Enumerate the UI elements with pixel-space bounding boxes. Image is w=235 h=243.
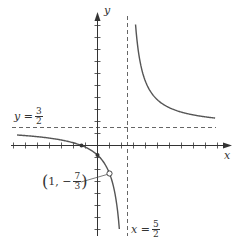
x-axis-arrow-icon — [223, 143, 232, 149]
va-lhs: x = — [131, 223, 150, 236]
ha-denominator: 2 — [36, 117, 42, 126]
ha-lhs: y = — [14, 110, 33, 123]
hole-close-paren: ) — [81, 172, 87, 191]
x-intercept-point — [80, 144, 84, 148]
hole-label: (1, −73) — [42, 172, 87, 192]
right-branch — [136, 25, 216, 119]
x-axis-label: x — [224, 150, 230, 161]
va-denominator: 2 — [153, 230, 159, 239]
horizontal-asymptote-label: y =32 — [14, 107, 43, 127]
hole-coords: 1, − — [48, 175, 71, 188]
axes — [11, 12, 232, 236]
y-intercept-point — [96, 153, 100, 157]
hole-open-circle — [107, 171, 112, 176]
hole-denominator: 3 — [74, 182, 80, 191]
curves — [17, 25, 215, 229]
va-fraction: 52 — [152, 220, 160, 240]
ha-fraction: 32 — [35, 107, 43, 127]
y-axis-label: y — [104, 5, 110, 16]
vertical-asymptote-label: x =52 — [131, 220, 160, 240]
y-axis-arrow-icon — [95, 12, 101, 21]
